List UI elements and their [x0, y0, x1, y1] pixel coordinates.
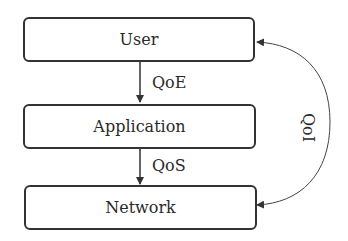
application-box: Application: [23, 104, 256, 149]
network-box: Network: [24, 185, 257, 230]
qoi-arc-lower: [257, 122, 330, 205]
application-label: Application: [93, 117, 185, 136]
user-box: User: [23, 17, 255, 62]
network-label: Network: [105, 198, 176, 217]
qoi-arc: [257, 42, 330, 122]
qoe-label: QoE: [152, 73, 186, 92]
user-label: User: [120, 30, 159, 49]
qos-label: QoS: [152, 156, 186, 175]
qoi-label: QoI: [299, 113, 318, 142]
